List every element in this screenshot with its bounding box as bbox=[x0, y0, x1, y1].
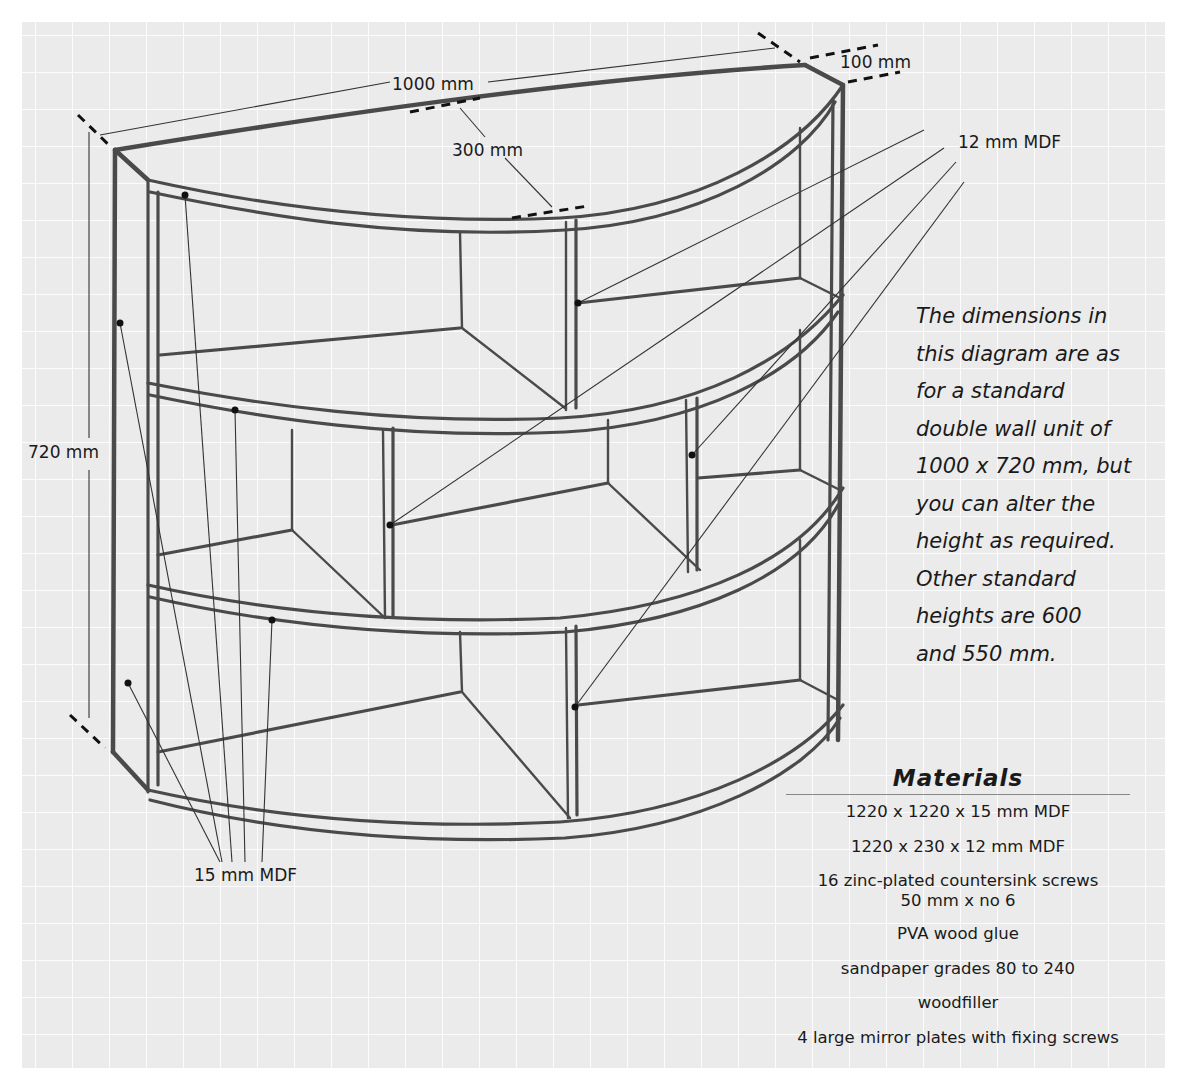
right-side-panel bbox=[800, 85, 843, 740]
materials-title: Materials bbox=[786, 765, 1130, 795]
note-line: for a standard bbox=[916, 373, 1166, 411]
note-line: Other standard bbox=[916, 561, 1166, 599]
callout-12mm-mdf: 12 mm MDF bbox=[958, 132, 1061, 152]
note-line: The dimensions in bbox=[916, 298, 1166, 336]
note-line: heights are 600 bbox=[916, 598, 1166, 636]
material-item: woodfiller bbox=[786, 986, 1130, 1021]
note-line: you can alter the bbox=[916, 486, 1166, 524]
note-line: double wall unit of bbox=[916, 411, 1166, 449]
upper-divider bbox=[566, 220, 576, 410]
material-item-line: 50 mm x no 6 bbox=[786, 891, 1130, 911]
dimension-label-depth: 300 mm bbox=[452, 140, 523, 160]
note-line: height as required. bbox=[916, 523, 1166, 561]
lower-divider bbox=[566, 626, 577, 818]
leaders-15mm-mdf bbox=[117, 192, 276, 863]
material-item-screws: 16 zinc-plated countersink screws 50 mm … bbox=[786, 864, 1130, 917]
dimension-label-overhang: 100 mm bbox=[840, 52, 911, 72]
note-line: and 550 mm. bbox=[916, 636, 1166, 674]
material-item: 1220 x 1220 x 15 mm MDF bbox=[786, 795, 1130, 830]
dimensions-note: The dimensions in this diagram are as fo… bbox=[916, 298, 1166, 673]
dimension-label-width: 1000 mm bbox=[392, 74, 474, 94]
material-item: 4 large mirror plates with fixing screws bbox=[786, 1021, 1130, 1056]
note-line: 1000 x 720 mm, but bbox=[916, 448, 1166, 486]
bottom-panel bbox=[148, 540, 843, 840]
material-item-line: 16 zinc-plated countersink screws bbox=[786, 871, 1130, 891]
materials-list: Materials 1220 x 1220 x 15 mm MDF 1220 x… bbox=[786, 765, 1130, 1055]
material-item: sandpaper grades 80 to 240 bbox=[786, 952, 1130, 987]
material-item: PVA wood glue bbox=[786, 917, 1130, 952]
left-side-panel bbox=[113, 150, 158, 792]
material-item: 1220 x 230 x 12 mm MDF bbox=[786, 830, 1130, 865]
callout-15mm-mdf: 15 mm MDF bbox=[194, 865, 297, 885]
dimension-label-height: 720 mm bbox=[28, 442, 99, 462]
note-line: this diagram are as bbox=[916, 336, 1166, 374]
